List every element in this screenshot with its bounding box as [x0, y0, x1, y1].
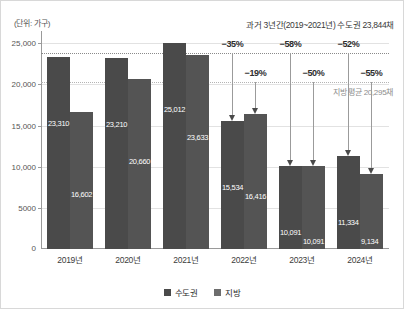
gridline [41, 126, 389, 127]
drop-connector-line [371, 82, 372, 168]
bar-capital [47, 57, 70, 249]
bar-value-label: 25,012 [164, 105, 185, 114]
bar-value-label: 10,091 [303, 237, 324, 246]
drop-connector-line [255, 82, 256, 108]
legend-swatch-icon [214, 289, 221, 296]
y-axis-tick-label: 25,000 [12, 39, 36, 48]
drop-connector-line [348, 53, 349, 150]
x-axis-label: 2020년 [115, 253, 140, 265]
bar-value-label: 9,134 [361, 237, 378, 246]
x-axis-label: 2021년 [173, 253, 198, 265]
bar-local [186, 55, 209, 249]
bar-capital [337, 156, 360, 249]
chart-card: (단위: 가구) 과거 3년간(2019~2021년) 수도권 23,844채 … [0, 0, 404, 309]
drop-connector-line [232, 53, 233, 115]
drop-arrow-head [252, 108, 258, 114]
drop-arrow-head [310, 160, 316, 166]
plot-area: 500010,00015,00020,00025,0000지방 평균 20,29… [41, 31, 389, 249]
drop-arrow-head [287, 160, 293, 166]
bar-value-label: 10,091 [280, 228, 301, 237]
reference-line-local [41, 82, 389, 83]
y-axis-tick-label: 5000 [18, 203, 36, 212]
drop-arrow-head [229, 115, 235, 121]
chart-legend: 수도권지방 [1, 286, 403, 298]
drop-arrow-head [368, 168, 374, 174]
y-axis-line [41, 31, 42, 249]
legend-label: 지방 [225, 286, 240, 298]
legend-item: 수도권 [164, 286, 198, 298]
x-axis-label: 2024년 [347, 253, 372, 265]
bar-value-label: 20,660 [129, 157, 150, 166]
y-axis-zero-label: 0 [32, 244, 36, 253]
bar-value-label: 16,602 [71, 190, 92, 199]
legend-label: 수도권 [175, 286, 198, 298]
drop-percent-label: −58% [279, 39, 301, 49]
bar-capital [105, 58, 128, 249]
bar-capital [163, 43, 186, 249]
bar-value-label: 16,416 [245, 192, 266, 201]
x-axis-label: 2022년 [231, 253, 256, 265]
bar-value-label: 15,534 [222, 183, 243, 192]
bar-value-label: 23,310 [48, 119, 69, 128]
legend-swatch-icon [164, 289, 171, 296]
bar-value-label: 11,334 [338, 218, 359, 227]
drop-arrow-head [345, 150, 351, 156]
headline-annotation: 과거 3년간(2019~2021년) 수도권 23,844채 [246, 18, 394, 30]
bar-value-label: 23,210 [106, 120, 127, 129]
bar-value-label: 23,633 [187, 133, 208, 142]
drop-percent-label: −52% [337, 39, 359, 49]
reference-line-capital [41, 53, 389, 54]
drop-percent-label: −35% [221, 39, 243, 49]
x-axis-label: 2019년 [57, 253, 82, 265]
drop-percent-label: −19% [244, 68, 266, 78]
bar-local [244, 114, 267, 249]
legend-item: 지방 [214, 286, 240, 298]
y-axis-tick-label: 20,000 [12, 80, 36, 89]
drop-connector-line [313, 82, 314, 160]
reference-line-caption: 지방 평균 20,295채 [333, 86, 393, 97]
y-axis-tick-label: 10,000 [12, 162, 36, 171]
drop-percent-label: −50% [302, 68, 324, 78]
y-axis-tick-label: 15,000 [12, 121, 36, 130]
unit-label: (단위: 가구) [14, 17, 50, 28]
drop-connector-line [290, 53, 291, 160]
drop-percent-label: −55% [360, 68, 382, 78]
bar-local [70, 112, 93, 249]
x-axis-label: 2023년 [289, 253, 314, 265]
